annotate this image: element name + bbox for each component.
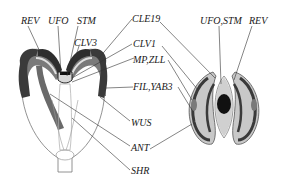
label-cle19: CLE19 (132, 14, 160, 24)
label-rev-left: REV (21, 16, 39, 26)
label-ufo-stm-right: UFO,STM (200, 16, 242, 26)
label-stm: STM (77, 16, 96, 26)
label-mp-zll: MP,ZLL (133, 55, 165, 65)
label-ufo: UFO (48, 16, 69, 26)
longitudinal-embryo (19, 49, 108, 172)
label-clv3: CLV3 (74, 38, 97, 48)
diagram-graphics (0, 0, 281, 189)
label-wus: WUS (131, 118, 152, 128)
gene-expression-diagram: REV UFO STM CLV3 CLE19 CLV1 MP,ZLL FIL,Y… (0, 0, 281, 189)
label-fil-yab3: FIL,YAB3 (133, 82, 173, 92)
transverse-section (189, 72, 259, 144)
label-rev-right: REV (249, 16, 267, 26)
label-ant: ANT (131, 143, 149, 153)
label-clv1: CLV1 (133, 39, 156, 49)
label-shr: SHR (131, 166, 149, 176)
